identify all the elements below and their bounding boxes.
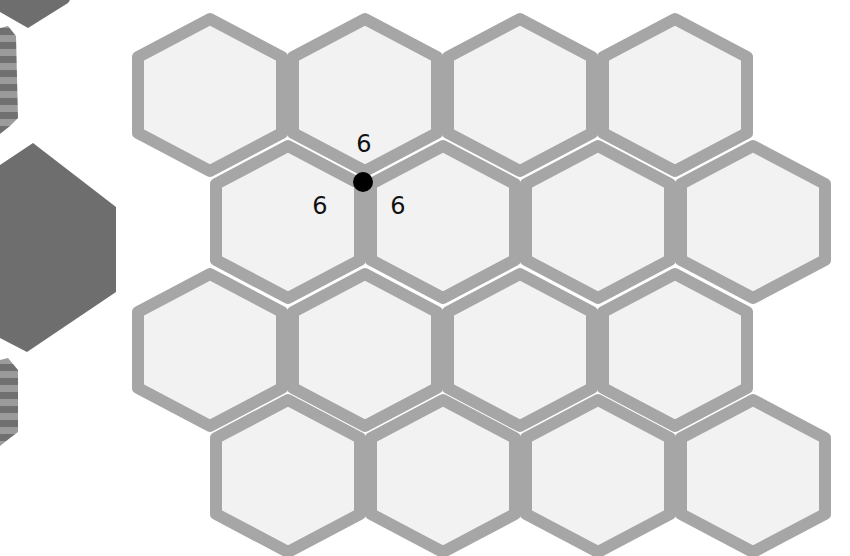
hexagon-cell bbox=[138, 274, 282, 426]
partial-dark-hexagon-top bbox=[0, 0, 70, 28]
hexagon-cell bbox=[526, 400, 670, 552]
vertex-label-top: 6 bbox=[356, 130, 371, 158]
hexagon-cell bbox=[681, 400, 825, 552]
hexagon-cell bbox=[216, 146, 360, 298]
side-decoration bbox=[0, 0, 116, 446]
hexagon-cell bbox=[138, 19, 282, 171]
hexagon-cell bbox=[448, 274, 592, 426]
hexagon-cell bbox=[371, 146, 515, 298]
vertex-dot bbox=[353, 172, 373, 192]
striped-hexagon-lower bbox=[0, 358, 18, 446]
hexagon-cell bbox=[526, 146, 670, 298]
hexagon-cell bbox=[371, 400, 515, 552]
hexagon-cell bbox=[681, 146, 825, 298]
striped-hexagon-upper bbox=[0, 26, 18, 134]
hexagon-tiling-diagram: 6 6 6 bbox=[0, 0, 850, 556]
hexagon-cell bbox=[603, 274, 747, 426]
vertex-label-right: 6 bbox=[390, 192, 405, 220]
hexagon-cell bbox=[293, 274, 437, 426]
hexagon-cell bbox=[448, 19, 592, 171]
dark-hexagon-middle bbox=[0, 143, 116, 352]
hexagon-cell bbox=[216, 400, 360, 552]
hexagon-grid bbox=[138, 19, 825, 552]
hexagon-cell bbox=[603, 19, 747, 171]
vertex-label-left: 6 bbox=[312, 192, 327, 220]
